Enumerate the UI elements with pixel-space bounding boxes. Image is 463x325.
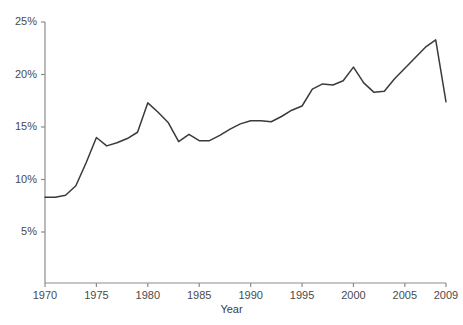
x-tick-label: 1995: [277, 289, 327, 301]
x-axis-title: Year: [0, 303, 463, 315]
line-chart: 5%10%15%20%25% 1970197519801985199019952…: [0, 0, 463, 325]
y-tick-label: 25%: [0, 15, 37, 27]
data-series-line: [45, 40, 446, 198]
x-tick-label: 2009: [421, 289, 463, 301]
y-tick-label: 5%: [0, 225, 37, 237]
y-tick-label: 15%: [0, 120, 37, 132]
x-tick-label: 1970: [20, 289, 70, 301]
x-tick-label: 1980: [123, 289, 173, 301]
x-tick-label: 1975: [71, 289, 121, 301]
y-tick-label: 20%: [0, 68, 37, 80]
x-tick-label: 1985: [174, 289, 224, 301]
y-tick-label: 10%: [0, 173, 37, 185]
axes-group: [45, 22, 446, 283]
x-tick-label: 1990: [226, 289, 276, 301]
x-tick-label: 2000: [328, 289, 378, 301]
plot-area: [0, 0, 463, 325]
